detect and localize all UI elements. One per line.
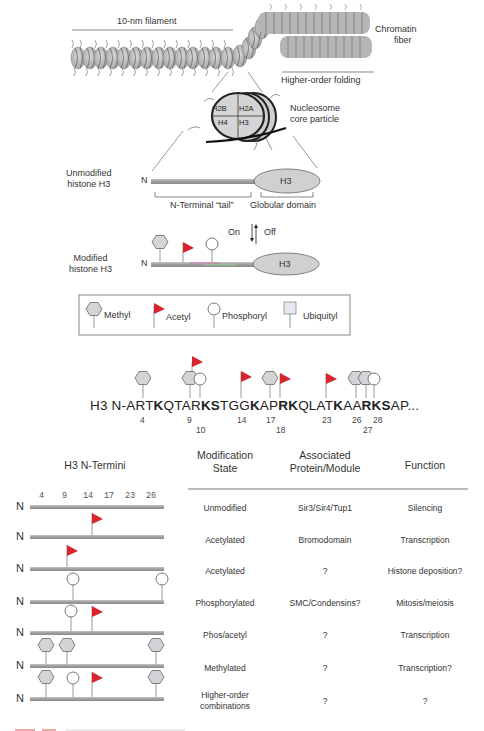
cell-protein: ?: [275, 696, 375, 707]
row-n-label: N: [16, 692, 24, 704]
scale-23: 23: [125, 491, 135, 501]
row6-mods: [38, 639, 164, 665]
cell-function: Transcription: [385, 535, 465, 546]
header-line: Modification: [185, 449, 265, 462]
row-n-label: N: [16, 562, 24, 574]
nucleosome-label: Nucleosome core particle: [290, 103, 340, 125]
header-modification-state: Modification State: [185, 449, 265, 475]
unmodified-n: N: [141, 175, 148, 186]
row4-mods: [67, 573, 168, 600]
unmodified-label: Unmodified histone H3: [66, 168, 112, 190]
nucleosome-core-particle: [188, 93, 286, 150]
figure-caption-fragment: [15, 727, 185, 731]
on-off-arrows: [250, 224, 258, 244]
cell-function: Transcription?: [385, 663, 465, 674]
seq-residue-r17-k18: RK: [278, 398, 298, 413]
modified-h3-diagram: [151, 236, 319, 276]
modified-h3-globular: H3: [279, 259, 291, 270]
row3-mods: [67, 545, 78, 567]
header-line: State: [185, 462, 265, 475]
modified-label-line2: histone H3: [69, 264, 112, 275]
row-n-label: N: [16, 530, 24, 542]
cell-state: Unmodified: [185, 503, 265, 514]
scale-9: 9: [62, 491, 67, 501]
unmodified-h3-globular: H3: [280, 176, 292, 187]
cell-function: Silencing: [385, 503, 465, 514]
unmodified-label-line1: Unmodified: [66, 168, 112, 179]
cell-protein: ?: [275, 630, 375, 641]
scale-4: 4: [39, 491, 44, 501]
folding-label: Higher-order folding: [281, 75, 361, 86]
chromatin-label-line1: Chromatin: [375, 24, 417, 35]
seq-part: H3 N-ART: [90, 398, 154, 413]
seq-part: AP...: [391, 398, 420, 413]
cell-protein: ?: [275, 566, 375, 577]
nucleosome-label-line1: Nucleosome: [290, 103, 340, 114]
cell-protein: Sir3/Sir4/Tup1: [275, 503, 375, 514]
pos-9: 9: [187, 415, 192, 425]
pos-26: 26: [352, 415, 361, 425]
row-n-label: N: [16, 626, 24, 638]
nucleosome-label-line2: core particle: [290, 114, 340, 125]
header-function: Function: [385, 459, 465, 472]
seq-part: AP: [260, 398, 278, 413]
seq-residue-k23: K: [333, 398, 343, 413]
cell-protein: SMC/Condensins?: [275, 598, 375, 609]
pos-27: 27: [363, 425, 372, 435]
header-associated-protein: Associated Protein/Module: [275, 449, 375, 475]
histone-h4: H4: [218, 118, 228, 127]
cell-protein: ?: [275, 663, 375, 674]
row2-mods: [92, 513, 103, 535]
cell-state: Phosphorylated: [182, 598, 268, 609]
filament-label: 10-nm filament: [117, 16, 177, 27]
h3-sequence: H3 N-ARTKQTARKSTGGKAPRKQLATKAARKSAP...: [90, 398, 419, 413]
legend-phosphoryl: Phosphoryl: [222, 311, 267, 322]
cell-function: ?: [385, 696, 465, 707]
row5-mods: [65, 605, 103, 631]
cell-state: Methylated: [185, 663, 265, 674]
seq-residue-r26-k27-s28: RKS: [362, 398, 391, 413]
chromatin-fiber-label: Chromatin fiber: [375, 24, 417, 46]
row-n-label: N: [16, 595, 24, 607]
pos-28: 28: [373, 415, 382, 425]
cell-state-line2: combinations: [185, 701, 265, 712]
legend-ubiquityl: Ubiquityl: [303, 311, 338, 322]
chromatin-fiber: [258, 4, 372, 58]
seq-part: QLAT: [298, 398, 333, 413]
legend-acetyl: Acetyl: [166, 312, 191, 323]
scale-14: 14: [83, 491, 93, 501]
histone-h2a: H2A: [239, 104, 254, 113]
pos-10: 10: [196, 425, 205, 435]
seq-part: AA: [343, 398, 361, 413]
cell-function: Mitosis/meiosis: [382, 598, 468, 609]
pos-14: 14: [237, 415, 246, 425]
pos-18: 18: [276, 425, 285, 435]
header-line: Associated: [275, 449, 375, 462]
on-label: On: [228, 227, 240, 238]
seq-residue-k9-s10: KS: [201, 398, 220, 413]
off-label: Off: [264, 227, 276, 238]
scale-26: 26: [146, 491, 156, 501]
histone-h2b: H2B: [212, 104, 227, 113]
histone-h3: H3: [239, 118, 249, 127]
cell-state: Phos/acetyl: [185, 630, 265, 641]
pos-17: 17: [266, 415, 275, 425]
modified-label: Modified histone H3: [69, 253, 112, 275]
scale-17: 17: [104, 491, 114, 501]
sequence-modifications: [135, 356, 380, 398]
tail-label: N-Terminal “tail”: [170, 200, 234, 211]
globular-domain-label: Globular domain: [250, 200, 316, 211]
h3-termini-header: H3 N-Termini: [30, 459, 160, 472]
unmodified-label-line2: histone H3: [66, 179, 112, 190]
cell-state-line1: Higher-order: [185, 690, 265, 701]
pos-23: 23: [322, 415, 331, 425]
modified-label-line1: Modified: [69, 253, 112, 264]
pos-4: 4: [140, 415, 145, 425]
modified-n: N: [141, 258, 148, 269]
cell-function: Transcription: [385, 630, 465, 641]
seq-residue-k4: K: [154, 398, 164, 413]
seq-part: TGG: [220, 398, 250, 413]
row7-mods: [38, 671, 164, 698]
legend-methyl: Methyl: [104, 310, 131, 321]
row-n-label: N: [16, 659, 24, 671]
